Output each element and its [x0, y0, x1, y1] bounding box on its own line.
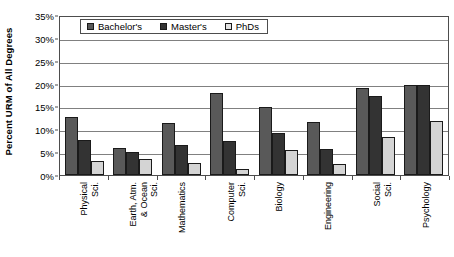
- x-axis-tick-mark: [59, 176, 60, 180]
- bar-group: [210, 17, 249, 175]
- bar[interactable]: [223, 141, 236, 175]
- x-axis-category-label: Earth, Atm.& OceanSci.: [128, 182, 142, 257]
- x-axis-category-label-line: Social: [372, 182, 383, 207]
- y-axis-tick-mark: [55, 130, 58, 131]
- legend-swatch-icon: [160, 23, 167, 30]
- bar[interactable]: [175, 145, 188, 175]
- y-axis-tick-label: 25%: [35, 56, 54, 67]
- bar-chart: Percent URM of All Degrees 0%5%10%15%20%…: [0, 0, 454, 257]
- y-axis-tick-label: 30%: [35, 33, 54, 44]
- bar[interactable]: [188, 163, 201, 175]
- y-axis-tick-label: 10%: [35, 125, 54, 136]
- bar-group: [259, 17, 298, 175]
- bar-group: [162, 17, 201, 175]
- bar[interactable]: [113, 148, 126, 175]
- bar-group: [307, 17, 346, 175]
- legend-item-label: Master's: [171, 21, 207, 32]
- x-axis-category-label-line: Computer: [226, 182, 237, 222]
- legend-item[interactable]: PhDs: [225, 21, 259, 32]
- bar-group: [65, 17, 104, 175]
- y-axis-tick-mark: [55, 16, 58, 17]
- bar[interactable]: [430, 121, 443, 175]
- y-axis-tick-label: 0%: [40, 171, 54, 182]
- bars-layer: [60, 17, 448, 175]
- x-axis-category-label: Psychology: [421, 182, 435, 257]
- bar-group: [113, 17, 152, 175]
- legend-item-label: PhDs: [236, 21, 259, 32]
- y-axis-tick-label: 20%: [35, 79, 54, 90]
- x-axis-tick-mark: [449, 176, 450, 180]
- bar[interactable]: [320, 149, 333, 175]
- x-axis-ticks: [59, 176, 449, 181]
- x-axis-category-label-line: Psychology: [421, 182, 432, 228]
- y-axis-tick-mark: [55, 176, 58, 177]
- y-axis-tick-mark: [55, 153, 58, 154]
- x-axis-tick-mark: [352, 176, 353, 180]
- bar[interactable]: [78, 140, 91, 175]
- x-axis-tick-mark: [303, 176, 304, 180]
- x-axis-tick-mark: [254, 176, 255, 180]
- x-axis-category-label-line: Sci.: [382, 182, 393, 197]
- plot-area: [59, 16, 449, 176]
- x-axis-category-labels: PhysicalSci.Earth, Atm.& OceanSci.Mathem…: [59, 182, 449, 257]
- y-axis-tick-mark: [55, 84, 58, 85]
- x-axis-category-label-line: Sci.: [236, 182, 247, 197]
- x-axis-category-label-line: Engineering: [323, 182, 334, 230]
- bar-group: [356, 17, 395, 175]
- x-axis-category-label-line: Sci.: [149, 182, 160, 197]
- x-axis-tick-mark: [157, 176, 158, 180]
- legend-item[interactable]: Bachelor's: [87, 21, 142, 32]
- x-axis-category-label: Biology: [274, 182, 288, 257]
- bar[interactable]: [356, 88, 369, 175]
- legend-item[interactable]: Master's: [160, 21, 207, 32]
- bar[interactable]: [162, 123, 175, 175]
- bar[interactable]: [210, 93, 223, 175]
- y-axis-tick-mark: [55, 38, 58, 39]
- bar[interactable]: [91, 161, 104, 175]
- x-axis-category-label-line: Earth, Atm.: [128, 182, 139, 227]
- bar[interactable]: [65, 117, 78, 176]
- x-axis-category-label: SocialSci.: [372, 182, 386, 257]
- legend-item-label: Bachelor's: [98, 21, 142, 32]
- bar[interactable]: [259, 107, 272, 175]
- y-axis-title-text: Percent URM of All Degrees: [4, 27, 15, 155]
- x-axis-category-label: Engineering: [323, 182, 337, 257]
- x-axis-category-label: PhysicalSci.: [79, 182, 93, 257]
- y-axis-tick-label: 5%: [40, 148, 54, 159]
- bar[interactable]: [236, 169, 249, 175]
- bar[interactable]: [139, 159, 152, 175]
- bar[interactable]: [272, 133, 285, 176]
- x-axis-category-label-line: & Ocean: [139, 182, 150, 217]
- bar[interactable]: [382, 137, 395, 175]
- x-axis-tick-mark: [108, 176, 109, 180]
- y-axis-tick-label: 15%: [35, 102, 54, 113]
- bar[interactable]: [404, 85, 417, 175]
- bar-group: [404, 17, 443, 175]
- legend-swatch-icon: [225, 23, 232, 30]
- x-axis-category-label-line: Mathematics: [177, 182, 188, 233]
- x-axis-category-label: ComputerSci.: [226, 182, 240, 257]
- y-axis-tick-label: 35%: [35, 11, 54, 22]
- bar[interactable]: [285, 150, 298, 175]
- x-axis-category-label: Mathematics: [177, 182, 191, 257]
- y-axis-tick-mark: [55, 107, 58, 108]
- x-axis-category-label-line: Biology: [274, 182, 285, 212]
- bar[interactable]: [333, 164, 346, 175]
- bar[interactable]: [369, 96, 382, 175]
- x-axis-category-label-line: Sci.: [90, 182, 101, 197]
- y-axis-tick-mark: [55, 61, 58, 62]
- x-axis-tick-mark: [400, 176, 401, 180]
- x-axis-category-label-line: Physical: [79, 182, 90, 216]
- chart-legend: Bachelor'sMaster'sPhDs: [80, 19, 268, 34]
- y-axis-title: Percent URM of All Degrees: [0, 0, 18, 182]
- x-axis-tick-mark: [205, 176, 206, 180]
- bar[interactable]: [307, 122, 320, 175]
- y-axis-tick-labels: 0%5%10%15%20%25%30%35%: [18, 10, 58, 182]
- bar[interactable]: [417, 85, 430, 176]
- bar[interactable]: [126, 152, 139, 175]
- legend-swatch-icon: [87, 23, 94, 30]
